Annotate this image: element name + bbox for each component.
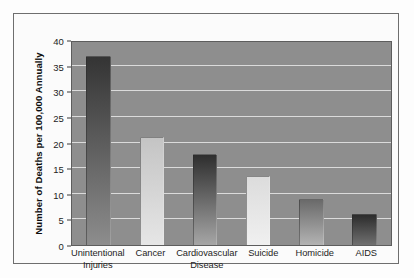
bar-series xyxy=(72,42,391,245)
x-tick-label-line1: Homicide xyxy=(296,248,334,258)
x-tick-label-line2: Injuries xyxy=(71,260,125,272)
plot-area xyxy=(71,41,392,246)
bar[interactable] xyxy=(140,137,164,245)
bar-slot xyxy=(72,42,125,245)
y-tick-label: 20 xyxy=(53,138,64,149)
x-tick-label: UnintentionalInjuries xyxy=(71,248,125,271)
bar-slot xyxy=(125,42,178,245)
x-tick-label: Suicide xyxy=(237,248,289,271)
x-axis: UnintentionalInjuriesCancerCardiovascula… xyxy=(71,248,392,271)
bar[interactable] xyxy=(299,199,323,245)
y-tick-label: 30 xyxy=(53,87,64,98)
x-tick-label: Homicide xyxy=(289,248,341,271)
y-tick-label: 0 xyxy=(59,241,64,252)
bar-slot xyxy=(178,42,231,245)
figure-frame: Number of Deaths per 100,000 Annually 05… xyxy=(13,13,399,264)
bar[interactable] xyxy=(193,154,217,245)
x-tick-label-line1: AIDS xyxy=(355,248,377,258)
x-tick-label-line1: Cardiovascular xyxy=(176,248,237,258)
figure: Number of Deaths per 100,000 Annually 05… xyxy=(0,0,414,278)
bar-slot xyxy=(232,42,285,245)
x-tick-label: Cancer xyxy=(125,248,177,271)
x-tick-label: CardiovascularDisease xyxy=(176,248,237,271)
y-tick-label: 10 xyxy=(53,189,64,200)
y-tick-label: 40 xyxy=(53,36,64,47)
y-tick-label: 5 xyxy=(59,215,64,226)
bar[interactable] xyxy=(86,56,110,245)
x-tick-label-line1: Cancer xyxy=(136,248,166,258)
x-tick-label-line1: Suicide xyxy=(248,248,278,258)
y-tick-label: 15 xyxy=(53,164,64,175)
y-axis: 0510152025303540 xyxy=(14,41,71,246)
x-tick-label: AIDS xyxy=(340,248,392,271)
x-tick-label-line1: Unintentional xyxy=(71,248,125,258)
bar-slot xyxy=(285,42,338,245)
y-tick-label: 35 xyxy=(53,61,64,72)
x-tick-label-line2: Disease xyxy=(176,260,237,272)
bar[interactable] xyxy=(352,214,376,245)
y-tick-label: 25 xyxy=(53,112,64,123)
bar[interactable] xyxy=(246,176,270,245)
bar-slot xyxy=(338,42,391,245)
